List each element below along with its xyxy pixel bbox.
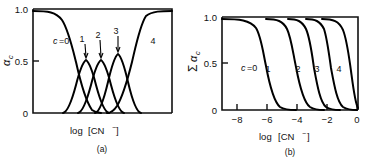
figure-container: 1.0 0.5 0 α c — [0, 0, 368, 157]
panel-b-xlabel-close: ] — [307, 131, 310, 142]
panel-a-curves — [33, 11, 172, 113]
panel-a-xlabel-close: ] — [116, 125, 119, 136]
panel-b-xlabel-superscript: − — [302, 130, 306, 137]
panel-b-xtick-label-neg8: −8 — [232, 114, 243, 125]
panel-a-y-axis-label: α c — [0, 55, 15, 66]
panel-b-label-3: 3 — [314, 64, 319, 74]
panel-b-xtick-label-neg6: −6 — [262, 114, 273, 125]
panel-a-caption: (a) — [97, 144, 108, 154]
panel-a-label-4: 4 — [150, 36, 155, 46]
panel-a-xlabel-prefix: log — [70, 125, 83, 136]
panel-b-xtick-label-0: 0 — [354, 114, 359, 125]
panel-a-label-2: 2 — [95, 30, 100, 40]
panel-a-label-c0-eq: =0 — [59, 36, 69, 46]
panel-b-ytick-label-1: 1.0 — [204, 12, 217, 23]
panel-b-label-4: 4 — [336, 64, 341, 74]
panel-b-curve-c0 — [222, 19, 296, 110]
panel-a-ytick-label-1: 1.0 — [15, 4, 28, 15]
panel-a-x-axis-label: log [CN − ] — [70, 124, 119, 136]
panel-b-ytick-label-0: 0 — [212, 105, 217, 116]
panel-b-y-axis-label-sigma: Σ — [186, 65, 200, 72]
panel-b-label-2: 2 — [295, 64, 300, 74]
panel-a-y-axis-label-sub: c — [6, 55, 15, 59]
panel-a: 1.0 0.5 0 α c — [0, 0, 184, 157]
panel-a-label-1: 1 — [79, 34, 84, 44]
panel-b-caption: (b) — [285, 147, 296, 157]
panel-b-y-axis-label-sub: c — [193, 51, 202, 55]
panel-a-curve-c1 — [63, 60, 109, 113]
panel-b-label-c0-c: c — [241, 63, 246, 73]
panel-b-y-axis-label: Σ α c — [186, 51, 202, 72]
panel-b-x-axis-label: log [CN − ] — [259, 130, 310, 142]
panel-a-curve-c0 — [33, 11, 101, 113]
panel-a-label-c0-c: c — [53, 36, 58, 46]
panel-b-label-1: 1 — [265, 64, 270, 74]
panel-a-y-axis-label-alpha: α — [0, 59, 12, 66]
panel-a-ytick-label-0: 0 — [23, 108, 28, 119]
panel-b-ytick-label-0_5: 0.5 — [204, 58, 217, 69]
panel-a-xlabel-bracket: [CN — [88, 125, 105, 136]
panel-b-xtick-label-neg4: −4 — [292, 114, 303, 125]
panel-b: 1.0 0.5 0 −8 −6 −4 −2 0 Σ α c — [184, 0, 368, 157]
panel-b-label-c0-eq: =0 — [247, 63, 257, 73]
panel-a-plot: 1.0 0.5 0 α c — [0, 0, 184, 157]
panel-a-ytick-label-0_5: 0.5 — [15, 56, 28, 67]
panel-b-xtick-label-neg2: −2 — [322, 114, 333, 125]
panel-b-xlabel-prefix: log — [259, 131, 272, 142]
panel-a-label-3: 3 — [113, 26, 118, 36]
panel-b-xlabel-bracket: [CN — [278, 131, 295, 142]
panel-b-curve-annotations: c =0 1 2 3 4 — [241, 63, 342, 74]
panel-b-y-axis-label-alpha: α — [187, 55, 199, 62]
panel-b-plot: 1.0 0.5 0 −8 −6 −4 −2 0 Σ α c — [184, 0, 368, 157]
